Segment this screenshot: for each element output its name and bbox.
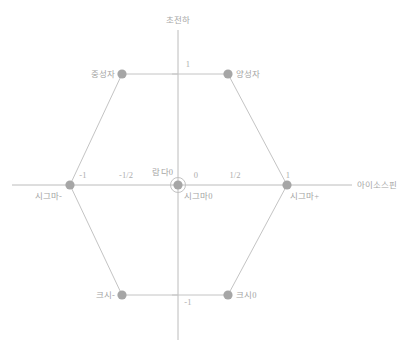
particle-label-neutron: 중성자 (91, 70, 115, 79)
particle-label-xi-minus: 크시- (96, 291, 115, 300)
particle-label-sigma-zero: 시그마0 (184, 192, 213, 201)
marker-lambda-sigma-zero[interactable] (173, 180, 182, 189)
particle-label-sigma-minus: 시그마- (35, 192, 62, 201)
marker-xi-minus[interactable] (117, 290, 126, 299)
tick-label-x-0: 0 (194, 171, 198, 180)
particle-label-proton: 양성자 (236, 70, 260, 79)
tick-label-x-neg1: -1 (79, 171, 86, 180)
tick-label-x-neg-half: -1/2 (119, 171, 133, 180)
tick-label-x-half: 1/2 (229, 171, 240, 180)
diagram-canvas (0, 0, 409, 352)
tick-label-y-1: 1 (186, 60, 190, 69)
marker-sigma-plus[interactable] (282, 180, 291, 189)
tick-label-x-1: 1 (286, 171, 290, 180)
horizontal-axis-label: 아이소스핀 (357, 181, 398, 190)
marker-sigma-minus[interactable] (65, 180, 74, 189)
vertical-axis-label: 초전하 (166, 16, 190, 25)
tick-label-y-neg1: -1 (184, 298, 191, 307)
marker-xi-zero[interactable] (223, 290, 232, 299)
particle-label-sigma-plus: 시그마+ (290, 192, 319, 201)
particle-label-xi-zero: 크시0 (236, 291, 257, 300)
marker-proton[interactable] (223, 69, 232, 78)
particle-label-lambda-zero: 람다0 (152, 168, 173, 177)
octet-weight-diagram: 초전하 아이소스핀 1 -1 -1 -1/2 0 1/2 1 중성자 양성자 시… (0, 0, 409, 352)
marker-neutron[interactable] (117, 69, 126, 78)
